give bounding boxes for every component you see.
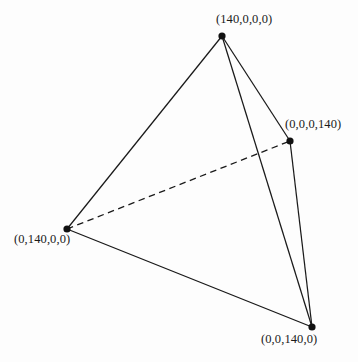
vertex-dot-top [218, 32, 225, 39]
tetrahedron-figure: (140,0,0,0) (0,0,0,140) (0,140,0,0) (0,0… [0, 0, 358, 362]
tetrahedron-svg [0, 0, 358, 362]
edge-right-to-bottom [290, 141, 312, 327]
edge-left-to-bottom [67, 229, 312, 327]
edge-top-to-bottom [222, 36, 312, 327]
edge-top-to-left [67, 36, 222, 229]
vertex-dot-right [286, 137, 293, 144]
edge-left-to-right-hidden [67, 141, 290, 229]
edge-top-to-right [222, 36, 290, 141]
vertex-label-left: (0,140,0,0) [14, 232, 70, 246]
vertex-label-bottom: (0,0,140,0) [261, 332, 317, 346]
vertex-dot-bottom [308, 323, 315, 330]
vertex-label-right: (0,0,0,140) [285, 117, 341, 131]
vertex-label-top: (140,0,0,0) [216, 12, 272, 26]
